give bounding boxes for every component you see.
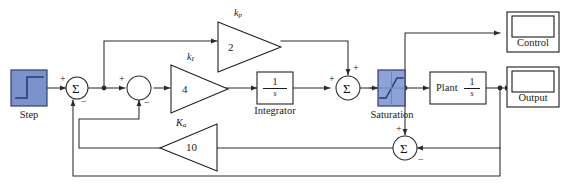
saturation-label: Saturation	[366, 110, 418, 121]
sum4-sign-top: +	[396, 124, 402, 134]
output-scope-screen	[512, 71, 554, 92]
integrator-denominator: s	[263, 90, 287, 98]
junction-dot-nodec	[498, 86, 503, 91]
sum1-sigma: Σ	[72, 82, 80, 95]
block-diagram-canvas: Step Integrator Saturation Plant Control…	[0, 0, 568, 188]
gain-ki-subscript: I	[191, 55, 193, 63]
gain-ka-value: 10	[186, 142, 197, 153]
sum1-sign-left: +	[60, 74, 66, 84]
step-label: Step	[11, 110, 47, 121]
gain-ki-value: 4	[182, 84, 188, 95]
control-scope-screen	[512, 16, 554, 37]
sum3-sigma: Σ	[343, 82, 351, 95]
plant-label: Plant	[436, 83, 458, 94]
junction-dot-nodea	[102, 86, 107, 91]
wire-kp-to-sum3	[281, 41, 348, 75]
integrator-label: Integrator	[250, 106, 300, 117]
plant-numerator: 1	[464, 77, 480, 87]
gain-ka-name: Ka	[176, 118, 186, 129]
sum2-sign-left: +	[119, 74, 125, 84]
gain-ki-triangle	[171, 65, 228, 113]
sum2-sign-bottom: −	[144, 98, 150, 108]
sum1-sign-bottom: −	[81, 97, 87, 107]
gain-kp-value: 2	[228, 42, 234, 53]
step-block-rect	[11, 70, 47, 106]
plant-denominator: s	[464, 90, 480, 98]
gain-kp-subscript: p	[238, 11, 242, 19]
gain-kp-name: kp	[234, 8, 242, 19]
integrator-transfer-function: 1 s	[263, 77, 287, 98]
plant-transfer-function: 1 s	[464, 77, 480, 98]
integrator-numerator: 1	[263, 77, 287, 87]
gain-ki-name: kI	[187, 52, 194, 63]
sum4-sigma: Σ	[400, 142, 408, 155]
control-scope-label: Control	[507, 38, 559, 49]
sum3-sign-left: +	[329, 74, 335, 84]
gain-ka-symbol: K	[176, 117, 183, 128]
sum3-sign-top: +	[353, 63, 359, 73]
gain-ka-subscript: a	[183, 121, 187, 129]
sum4-sign-right: −	[418, 155, 424, 165]
output-scope-label: Output	[507, 93, 559, 104]
